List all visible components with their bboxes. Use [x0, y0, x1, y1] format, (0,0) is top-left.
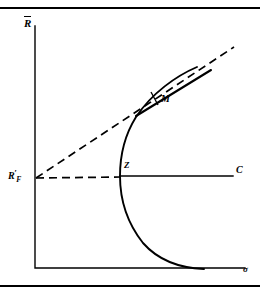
zero-beta-horizontal-dashed [36, 177, 120, 178]
axis-lines [35, 26, 245, 268]
minimum-variance-portfolio-label: Z [124, 161, 130, 170]
plot-canvas [0, 0, 260, 296]
capital-market-line-tangent [36, 47, 234, 178]
y-axis-label: R [24, 16, 31, 29]
risk-free-rate-label: R′F [8, 169, 21, 183]
x-axis-label: σ [243, 265, 248, 274]
risk-free-rate-subscript: F [16, 175, 21, 184]
tangency-portfolio-label: M [161, 94, 170, 104]
figure-container: R R′F M Z C σ [0, 0, 260, 296]
y-axis-label-text: R [24, 16, 31, 29]
zero-beta-line-end-label: C [236, 165, 243, 175]
tangent-solid-segment [136, 70, 211, 116]
